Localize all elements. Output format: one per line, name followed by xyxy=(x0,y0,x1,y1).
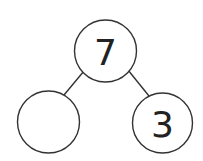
part-circle-left xyxy=(18,91,80,153)
bond-line-left xyxy=(64,71,84,95)
whole-node: 7 xyxy=(75,20,137,82)
bond-line-right xyxy=(128,70,149,96)
part-node-left xyxy=(18,91,80,153)
whole-value: 7 xyxy=(94,32,117,73)
number-bond-diagram: 7 3 xyxy=(0,0,203,161)
part-node-right: 3 xyxy=(133,93,193,153)
part-value-right: 3 xyxy=(151,104,174,145)
